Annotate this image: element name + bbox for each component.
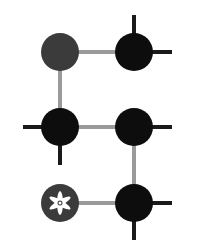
node-bottom-right (115, 184, 153, 222)
node-middle-left (41, 108, 79, 146)
node-bottom-left (41, 184, 79, 222)
node-graph-diagram (0, 0, 200, 244)
node-circle (115, 184, 153, 222)
node-middle-right (115, 108, 153, 146)
node-top-right (115, 33, 153, 71)
node-circle (115, 108, 153, 146)
node-circle (115, 33, 153, 71)
node-circle (41, 108, 79, 146)
node-top-left (41, 33, 79, 71)
diagram-canvas (0, 0, 200, 244)
node-circle (41, 33, 79, 71)
